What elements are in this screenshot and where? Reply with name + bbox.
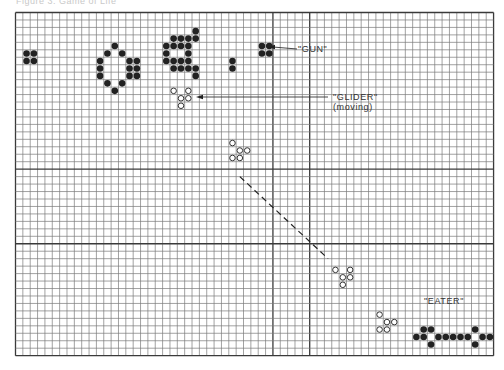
glider-trajectory-dashed-line bbox=[240, 177, 328, 259]
glider-pattern bbox=[171, 88, 191, 109]
annotations bbox=[196, 45, 328, 259]
gun-label: "GUN" bbox=[298, 44, 327, 54]
glider-pattern bbox=[377, 312, 397, 333]
glider-pattern bbox=[230, 140, 250, 161]
graph-paper-grid bbox=[16, 13, 494, 356]
glider-moving-label: (moving) bbox=[333, 102, 373, 112]
glider-pattern bbox=[333, 267, 353, 288]
gun-arrow-line bbox=[273, 47, 297, 49]
gun-cluster-pattern bbox=[163, 28, 199, 79]
glider-label: "GLIDER" bbox=[333, 92, 378, 102]
eater-label: "EATER" bbox=[424, 296, 464, 306]
eater-pattern bbox=[413, 326, 493, 348]
game-of-life-figure: "GUN" "GLIDER" (moving) "EATER" bbox=[0, 0, 504, 370]
